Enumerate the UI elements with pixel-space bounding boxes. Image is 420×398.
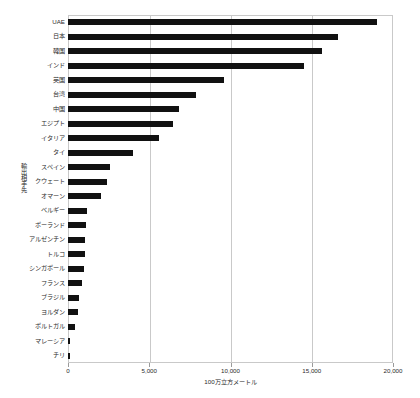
- x-axis-title: 100万立方メートル: [68, 379, 393, 385]
- x-tick-label: 20,000: [384, 368, 403, 374]
- bar: [68, 353, 70, 359]
- bar: [68, 48, 322, 54]
- bar: [68, 92, 196, 98]
- category-label: スペイン: [0, 164, 65, 170]
- category-label: トルコ: [0, 251, 65, 257]
- category-label: UAE: [0, 19, 65, 25]
- category-axis-labels: UAE日本韓国インド英国台湾中国エジプトイタリアタイスペインクウェートオマーンベ…: [0, 15, 65, 363]
- bar: [68, 135, 159, 141]
- bar: [68, 222, 86, 228]
- bar: [68, 280, 82, 286]
- bar: [68, 266, 84, 272]
- bar: [68, 106, 179, 112]
- bars-layer: [68, 15, 393, 363]
- bar-chart: UAE日本韓国インド英国台湾中国エジプトイタリアタイスペインクウェートオマーンベ…: [0, 0, 420, 398]
- bar: [68, 237, 85, 243]
- x-tick-label: 15,000: [302, 368, 321, 374]
- category-label: オマーン: [0, 193, 65, 199]
- bar: [68, 193, 101, 199]
- bar: [68, 208, 87, 214]
- bar: [68, 34, 338, 40]
- category-label: ポーランド: [0, 222, 65, 228]
- bar: [68, 309, 78, 315]
- bar: [68, 63, 304, 69]
- bar: [68, 295, 79, 301]
- category-label: チリ: [0, 352, 65, 358]
- bar: [68, 324, 75, 330]
- bar: [68, 164, 110, 170]
- bar: [68, 338, 70, 344]
- category-label: クウェート: [0, 178, 65, 184]
- category-label: 中国: [0, 106, 65, 112]
- category-label: エジプト: [0, 120, 65, 126]
- x-tick-label: 10,000: [221, 368, 240, 374]
- x-tick-label: 5,000: [142, 368, 157, 374]
- category-label: 日本: [0, 33, 65, 39]
- category-label: 英国: [0, 77, 65, 83]
- x-tick-label: 0: [66, 368, 69, 374]
- category-label: イタリア: [0, 135, 65, 141]
- bar: [68, 150, 133, 156]
- category-label: シンガポール: [0, 265, 65, 271]
- category-label: マレーシア: [0, 338, 65, 344]
- bar: [68, 121, 173, 127]
- bar: [68, 179, 107, 185]
- category-label: 台湾: [0, 91, 65, 97]
- category-label: フランス: [0, 280, 65, 286]
- category-label: アルゼンチン: [0, 236, 65, 242]
- category-label: タイ: [0, 149, 65, 155]
- bar: [68, 251, 85, 257]
- category-label: ポルトガル: [0, 323, 65, 329]
- category-label: ヨルダン: [0, 309, 65, 315]
- category-label: 韓国: [0, 48, 65, 54]
- category-label: ベルギー: [0, 207, 65, 213]
- y-axis-title: 輸出相手先: [20, 163, 26, 193]
- x-axis-ticks: 05,00010,00015,00020,000: [68, 363, 393, 375]
- category-label: インド: [0, 62, 65, 68]
- bar: [68, 19, 377, 25]
- bar: [68, 77, 224, 83]
- category-label: ブラジル: [0, 294, 65, 300]
